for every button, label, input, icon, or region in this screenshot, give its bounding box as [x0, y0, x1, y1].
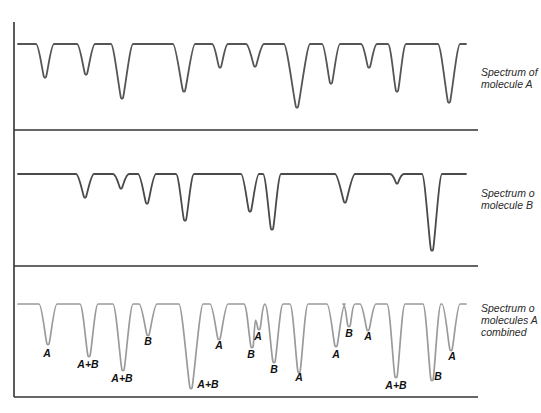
caption-line: molecule B — [481, 199, 541, 211]
peak-label: A+B — [76, 358, 99, 370]
peak-label: B — [247, 348, 255, 360]
peak-label: A — [42, 347, 51, 359]
caption-line: molecule A — [481, 78, 541, 90]
peak-label: B — [434, 370, 442, 382]
caption-line: Spectrum o — [481, 302, 541, 314]
caption-line: Spectrum o — [481, 187, 541, 199]
peak-label: B — [270, 363, 278, 375]
peak-label: A+B — [110, 372, 133, 384]
caption-line: molecules A — [481, 314, 541, 326]
peak-label: A — [214, 339, 223, 351]
peak-label: A — [447, 350, 456, 362]
spectrum-trace-combined — [18, 304, 466, 389]
spectrum-traces — [18, 44, 466, 389]
caption-line: combined — [481, 326, 541, 338]
peak-label: A+B — [384, 379, 407, 391]
diagram-frame — [14, 22, 478, 397]
peak-label: A — [294, 371, 303, 383]
spectrum-trace-molecule-b — [18, 174, 466, 251]
spectrum-diagram: AA+BA+BBA+BABABAABAA+BBA — [0, 0, 541, 413]
spectrum-trace-molecule-a — [18, 44, 466, 108]
peak-label: B — [345, 327, 353, 339]
peak-label: A — [363, 330, 372, 342]
peak-label: A — [253, 330, 262, 342]
caption-line: Spectrum of — [481, 66, 541, 78]
caption-molecule-b: Spectrum o molecule B — [481, 187, 541, 211]
peak-label: A — [331, 348, 340, 360]
caption-molecule-a: Spectrum of molecule A — [481, 66, 541, 90]
peak-label: A+B — [196, 378, 219, 390]
peak-label: B — [144, 335, 152, 347]
caption-combined: Spectrum o molecules A combined — [481, 302, 541, 338]
